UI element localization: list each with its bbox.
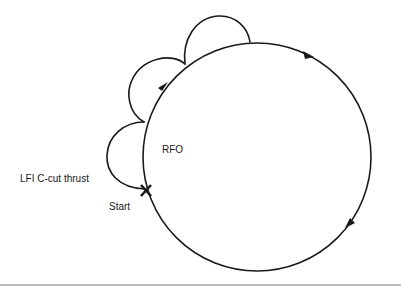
- start-x-marker: [141, 185, 151, 196]
- arrow-down-left-icon: [345, 218, 355, 228]
- main-circle-path: [143, 43, 371, 271]
- rfo-label: RFO: [162, 144, 183, 156]
- thrust-loop-2: [129, 58, 185, 122]
- rfo-diagram: [0, 0, 401, 286]
- thrust-label: LFI C-cut thrust: [20, 173, 89, 185]
- start-label: Start: [109, 201, 130, 213]
- thrust-loop-1: [107, 122, 145, 189]
- thrust-loop-3: [185, 16, 250, 64]
